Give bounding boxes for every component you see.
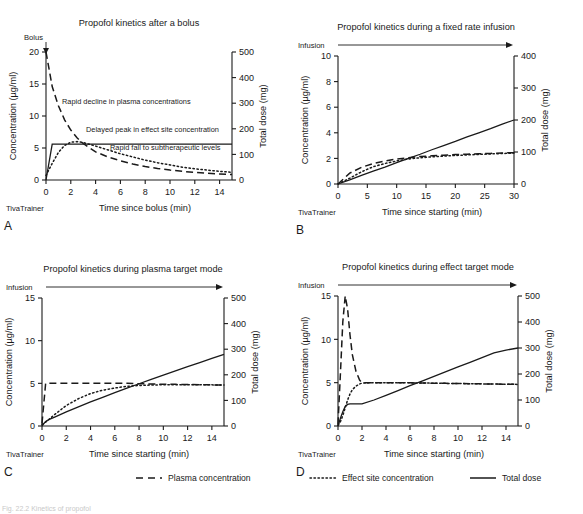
x-tick-label: 12 bbox=[477, 433, 487, 443]
x-tick-label: 10 bbox=[453, 433, 463, 443]
y2-tick-label: 0 bbox=[239, 175, 244, 185]
y-tick-label: 0 bbox=[34, 175, 39, 185]
x-tick-label: 15 bbox=[421, 191, 431, 201]
series-dashed bbox=[46, 52, 232, 175]
x-tick-label: 12 bbox=[183, 433, 193, 443]
y-axis-label: Concentration (µg/ml) bbox=[4, 318, 14, 407]
series-dashed bbox=[338, 296, 518, 424]
y2-tick-label: 400 bbox=[525, 317, 540, 327]
x-tick-label: 12 bbox=[190, 187, 200, 197]
x-tick-label: 14 bbox=[501, 433, 511, 443]
x-tick-label: 5 bbox=[365, 191, 370, 201]
series-solid bbox=[42, 354, 224, 426]
watermark-label: TivaTrainer bbox=[298, 450, 336, 459]
event-label: Bolus bbox=[24, 33, 43, 42]
event-label: Infusion bbox=[298, 281, 325, 290]
y-tick-label: 10 bbox=[321, 51, 331, 61]
x-tick-label: 0 bbox=[335, 433, 340, 443]
x-axis-label: Time since starting (min) bbox=[384, 449, 484, 459]
y2-tick-label: 200 bbox=[239, 124, 254, 134]
y2-tick-label: 100 bbox=[525, 395, 540, 405]
y-tick-label: 4 bbox=[326, 128, 331, 138]
x-tick-label: 6 bbox=[407, 433, 412, 443]
series-solid bbox=[338, 348, 518, 426]
event-label: Infusion bbox=[298, 41, 325, 50]
x-tick-label: 10 bbox=[392, 191, 402, 201]
x-tick-label: 4 bbox=[93, 187, 98, 197]
y2-tick-label: 100 bbox=[231, 396, 246, 406]
y-tick-label: 8 bbox=[326, 77, 331, 87]
infusion-arrow-icon bbox=[506, 42, 513, 48]
y-tick-label: 15 bbox=[29, 79, 39, 89]
y-tick-label: 10 bbox=[29, 111, 39, 121]
y-tick-label: 15 bbox=[25, 293, 35, 303]
series-dotted bbox=[42, 385, 224, 425]
y2-tick-label: 500 bbox=[525, 291, 540, 301]
y2-tick-label: 500 bbox=[231, 293, 246, 303]
chart-panel-c: Propofol kinetics during plasma target m… bbox=[0, 250, 291, 500]
y2-tick-label: 300 bbox=[231, 344, 246, 354]
chart-annotation: Rapid decline in plasma concentrations bbox=[62, 97, 191, 106]
y-axis-label: Concentration (µg/ml) bbox=[8, 72, 18, 161]
y-tick-label: 15 bbox=[321, 291, 331, 301]
y-tick-label: 10 bbox=[25, 336, 35, 346]
y-tick-label: 10 bbox=[321, 335, 331, 345]
y2-tick-label: 300 bbox=[521, 83, 536, 93]
y2-tick-label: 100 bbox=[521, 147, 536, 157]
x-tick-label: 10 bbox=[158, 433, 168, 443]
x-tick-label: 14 bbox=[215, 187, 225, 197]
chart-panel-b: Propofol kinetics during a fixed rate in… bbox=[292, 0, 583, 250]
figure-legend: Plasma concentrationEffect site concentr… bbox=[0, 468, 583, 490]
x-axis-label: Time since starting (min) bbox=[89, 449, 189, 459]
y-tick-label: 0 bbox=[326, 179, 331, 189]
y2-tick-label: 400 bbox=[231, 319, 246, 329]
series-dotted bbox=[338, 383, 518, 425]
y-tick-label: 0 bbox=[326, 421, 331, 431]
caption-text: Fig. 22.2 Kinetics of propofol bbox=[0, 503, 583, 514]
y-axis-label: Concentration (µg/ml) bbox=[300, 317, 310, 406]
x-tick-label: 0 bbox=[335, 191, 340, 201]
x-tick-label: 6 bbox=[112, 433, 117, 443]
x-tick-label: 0 bbox=[43, 187, 48, 197]
y2-axis-label: Total dose (mg) bbox=[544, 329, 554, 392]
x-tick-label: 14 bbox=[207, 433, 217, 443]
panel-letter: A bbox=[4, 219, 12, 233]
panel-title: Propofol kinetics during plasma target m… bbox=[43, 264, 222, 274]
legend-label: Total dose bbox=[502, 473, 541, 483]
legend-label: Effect site concentration bbox=[342, 473, 434, 483]
x-axis-label: Time since bolus (min) bbox=[99, 203, 191, 213]
series-solid bbox=[338, 120, 514, 184]
y2-tick-label: 200 bbox=[521, 115, 536, 125]
y2-tick-label: 0 bbox=[231, 421, 236, 431]
y2-tick-label: 200 bbox=[231, 370, 246, 380]
chart-panel-a: Propofol kinetics after a bolusBolus0510… bbox=[0, 0, 291, 250]
figure-caption: Fig. 22.2 Kinetics of propofol bbox=[0, 503, 583, 514]
series-dashed bbox=[42, 383, 224, 423]
x-tick-label: 2 bbox=[68, 187, 73, 197]
x-axis-label: Time since starting (min) bbox=[382, 207, 482, 217]
y2-tick-label: 500 bbox=[239, 47, 254, 57]
y-tick-label: 20 bbox=[29, 47, 39, 57]
x-tick-label: 4 bbox=[88, 433, 93, 443]
watermark-label: TivaTrainer bbox=[298, 208, 336, 217]
x-tick-label: 2 bbox=[64, 433, 69, 443]
infusion-arrow-icon bbox=[216, 284, 223, 290]
watermark-label: TivaTrainer bbox=[6, 450, 44, 459]
y-tick-label: 6 bbox=[326, 102, 331, 112]
x-tick-label: 2 bbox=[359, 433, 364, 443]
x-tick-label: 4 bbox=[383, 433, 388, 443]
y2-tick-label: 0 bbox=[521, 179, 526, 189]
y2-tick-label: 100 bbox=[239, 150, 254, 160]
panel-title: Propofol kinetics after a bolus bbox=[79, 18, 200, 28]
x-tick-label: 8 bbox=[143, 187, 148, 197]
y2-axis-label: Total dose (mg) bbox=[250, 330, 260, 393]
series-dotted bbox=[338, 153, 514, 184]
y2-axis-label: Total dose (mg) bbox=[540, 88, 550, 151]
x-tick-label: 25 bbox=[480, 191, 490, 201]
propofol-kinetics-figure: Propofol kinetics after a bolusBolus0510… bbox=[0, 0, 583, 514]
x-tick-label: 8 bbox=[431, 433, 436, 443]
chart-panel-d: Propofol kinetics during effect target m… bbox=[292, 250, 583, 500]
y-axis-label: Concentration (µg/ml) bbox=[300, 76, 310, 165]
y-tick-label: 2 bbox=[326, 154, 331, 164]
panel-title: Propofol kinetics during effect target m… bbox=[342, 262, 514, 272]
